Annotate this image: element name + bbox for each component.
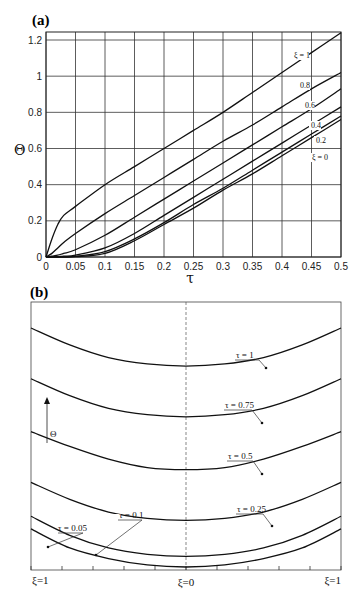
- svg-text:τ = 1: τ = 1: [236, 350, 254, 360]
- svg-text:0.8: 0.8: [300, 81, 310, 90]
- svg-text:0: 0: [43, 261, 49, 272]
- svg-text:0.6: 0.6: [28, 143, 42, 154]
- svg-text:0.6: 0.6: [305, 101, 315, 110]
- svg-text:ξ = 1: ξ = 1: [294, 51, 310, 60]
- svg-text:0.4: 0.4: [28, 179, 42, 190]
- panel-b-label: (b): [30, 284, 48, 301]
- svg-text:τ = 0.1: τ = 0.1: [119, 510, 143, 520]
- svg-text:0.5: 0.5: [334, 261, 348, 272]
- svg-text:0.35: 0.35: [243, 261, 263, 272]
- svg-text:τ = 0.75: τ = 0.75: [225, 400, 254, 410]
- figure: (a) 00.050.10.150.20.250.30.350.40.450.5…: [0, 0, 361, 603]
- xi-left-label: ξ=1: [32, 574, 49, 587]
- svg-text:ξ = 0: ξ = 0: [312, 153, 328, 162]
- theta-annotation: Θ: [50, 429, 57, 439]
- svg-text:0: 0: [36, 252, 42, 263]
- panel-b-plot: τ = 1τ = 0.75τ = 0.5τ = 0.25τ = 0.1τ = 0…: [31, 302, 341, 570]
- svg-text:0.4: 0.4: [275, 261, 289, 272]
- svg-text:1: 1: [36, 71, 42, 82]
- svg-text:0.8: 0.8: [28, 107, 42, 118]
- svg-text:0.05: 0.05: [66, 261, 86, 272]
- panel-a-plot: 00.050.10.150.20.250.30.350.40.450.500.2…: [28, 32, 348, 272]
- xi-right-label: ξ=1: [324, 574, 341, 587]
- svg-text:0.2: 0.2: [157, 261, 171, 272]
- svg-text:τ = 0.25: τ = 0.25: [237, 504, 266, 514]
- panel-a-label: (a): [32, 12, 50, 29]
- svg-text:0.3: 0.3: [216, 261, 230, 272]
- y-axis-label-theta: Θ: [14, 142, 25, 158]
- svg-text:0.2: 0.2: [316, 136, 326, 145]
- svg-text:0.1: 0.1: [98, 261, 112, 272]
- svg-text:0.45: 0.45: [302, 261, 322, 272]
- xi-center-label: ξ=0: [178, 576, 195, 589]
- svg-text:0.15: 0.15: [125, 261, 145, 272]
- svg-text:τ = 0.05: τ = 0.05: [58, 523, 87, 533]
- svg-text:τ = 0.5: τ = 0.5: [228, 451, 253, 461]
- x-axis-label-tau: τ: [186, 270, 194, 286]
- svg-text:1.2: 1.2: [28, 35, 42, 46]
- svg-text:0.4: 0.4: [311, 121, 321, 130]
- svg-text:0.2: 0.2: [28, 215, 42, 226]
